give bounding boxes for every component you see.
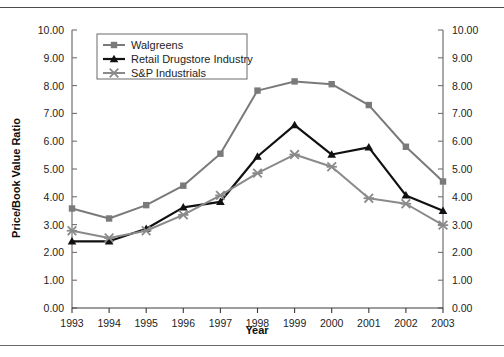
right-y-tick-label: 8.00 — [452, 80, 473, 92]
left-y-tick-label: 3.00 — [44, 219, 65, 231]
series-point — [254, 87, 260, 93]
series-point — [106, 215, 112, 221]
series-point — [217, 151, 223, 157]
right-y-tick-label: 0.00 — [452, 302, 473, 314]
legend-label: Walgreens — [131, 39, 184, 51]
left-y-tick-label: 10.00 — [38, 24, 64, 36]
x-tick-label: 1997 — [209, 317, 233, 329]
right-y-tick-label: 4.00 — [452, 191, 473, 203]
legend-label: S&P Industrials — [131, 67, 207, 79]
right-y-tick-label: 6.00 — [452, 135, 473, 147]
left-y-tick-label: 4.00 — [44, 191, 65, 203]
series-point — [403, 144, 409, 150]
right-y-tick-label: 9.00 — [452, 52, 473, 64]
x-tick-label: 2000 — [320, 317, 344, 329]
left-y-tick-label: 9.00 — [44, 52, 65, 64]
price-book-value-line-chart: 0.001.002.003.004.005.006.007.008.009.00… — [0, 8, 504, 345]
chart-figure: 0.001.002.003.004.005.006.007.008.009.00… — [0, 8, 504, 345]
right-y-tick-label: 2.00 — [452, 246, 473, 258]
left-y-tick-label: 0.00 — [44, 302, 65, 314]
series-point — [440, 178, 446, 184]
series-point — [366, 102, 372, 108]
series-point — [143, 202, 149, 208]
x-tick-label: 1996 — [172, 317, 196, 329]
x-tick-label: 1999 — [283, 317, 307, 329]
left-y-tick-label: 7.00 — [44, 107, 65, 119]
x-tick-label: 2002 — [394, 317, 418, 329]
x-tick-label: 2003 — [431, 317, 455, 329]
x-tick-label: 1994 — [97, 317, 121, 329]
chart-legend: WalgreensRetail Drugstore IndustryS&P In… — [97, 34, 253, 79]
right-y-tick-label: 5.00 — [452, 163, 473, 175]
left-y-tick-label: 1.00 — [44, 274, 65, 286]
x-axis-title: Year — [245, 324, 269, 336]
bottom-divider-rule — [0, 345, 504, 346]
x-tick-label: 2001 — [357, 317, 381, 329]
right-y-tick-label: 1.00 — [452, 274, 473, 286]
series-point — [180, 182, 186, 188]
right-y-tick-label: 10.00 — [452, 24, 478, 36]
x-tick-label: 1993 — [60, 317, 84, 329]
series-point — [69, 205, 75, 211]
series-point — [329, 81, 335, 87]
right-y-tick-label: 7.00 — [452, 107, 473, 119]
series-point — [291, 78, 297, 84]
legend-marker — [111, 42, 117, 48]
x-tick-label: 1995 — [135, 317, 159, 329]
legend-label: Retail Drugstore Industry — [131, 53, 253, 65]
left-y-tick-label: 6.00 — [44, 135, 65, 147]
left-y-tick-label: 2.00 — [44, 246, 65, 258]
y-axis-title: Price/Book Value Ratio — [10, 118, 22, 238]
right-y-tick-label: 3.00 — [452, 219, 473, 231]
left-y-tick-label: 8.00 — [44, 80, 65, 92]
left-y-tick-label: 5.00 — [44, 163, 65, 175]
